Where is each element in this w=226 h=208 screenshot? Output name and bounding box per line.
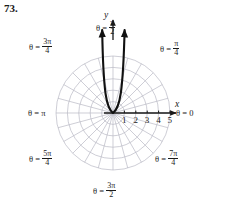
angle-label-theta-pi-2: θ = π 2 [96,19,115,37]
angle-value-0: 0 [189,109,193,118]
angle-label-theta-pi-4: θ = π 4 [160,40,179,58]
fraction-pi-2: π 2 [109,19,115,37]
fraction-5pi-4: 5π 4 [42,150,52,168]
theta-symbol: θ [176,109,180,118]
theta-symbol: θ [93,187,97,196]
equals-sign: = [182,109,187,118]
angle-value-pi: π [41,109,45,118]
equals-sign: = [102,24,107,33]
fraction-pi-4: π 4 [173,40,179,58]
fraction-denominator: 4 [168,159,178,167]
angle-label-theta-3pi-4: θ = 3π 4 [29,38,52,56]
fraction-denominator: 4 [173,49,179,57]
angle-label-theta-3pi-2: θ = 3π 2 [93,182,116,200]
fraction-3pi-2: 3π 2 [106,182,116,200]
x-tick-label-5: 5 [168,115,173,125]
x-tick-label-1: 1 [122,115,127,125]
angle-label-theta-pi: θ = π [28,108,45,117]
x-tick-label-3: 3 [145,115,150,125]
equals-sign: = [35,43,40,52]
equals-sign: = [34,109,39,118]
x-tick-label-4: 4 [156,115,161,125]
equals-sign: = [35,155,40,164]
theta-symbol: θ [160,45,164,54]
theta-symbol: θ [29,43,33,52]
equals-sign: = [99,187,104,196]
angle-label-theta-7pi-4: θ = 7π 4 [155,150,178,168]
fraction-denominator: 4 [42,159,52,167]
fraction-denominator: 2 [109,28,115,36]
equals-sign: = [161,155,166,164]
fraction-denominator: 2 [106,191,116,199]
fraction-7pi-4: 7π 4 [168,150,178,168]
equals-sign: = [166,45,171,54]
figure-page: 73. [0,0,226,208]
theta-symbol: θ [28,109,32,118]
fraction-denominator: 4 [42,47,52,55]
fraction-3pi-4: 3π 4 [42,38,52,56]
angle-label-theta-5pi-4: θ = 5π 4 [29,150,52,168]
theta-symbol: θ [96,24,100,33]
angle-label-theta-0: θ = 0 [176,108,193,117]
theta-symbol: θ [29,155,33,164]
x-tick-label-2: 2 [134,115,139,125]
theta-symbol: θ [155,155,159,164]
